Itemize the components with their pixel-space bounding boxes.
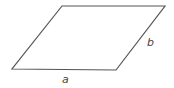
parallelogram-diagram: b a bbox=[0, 0, 174, 88]
side-label-b: b bbox=[147, 36, 154, 49]
side-label-a: a bbox=[62, 73, 69, 86]
parallelogram-shape bbox=[12, 6, 165, 70]
